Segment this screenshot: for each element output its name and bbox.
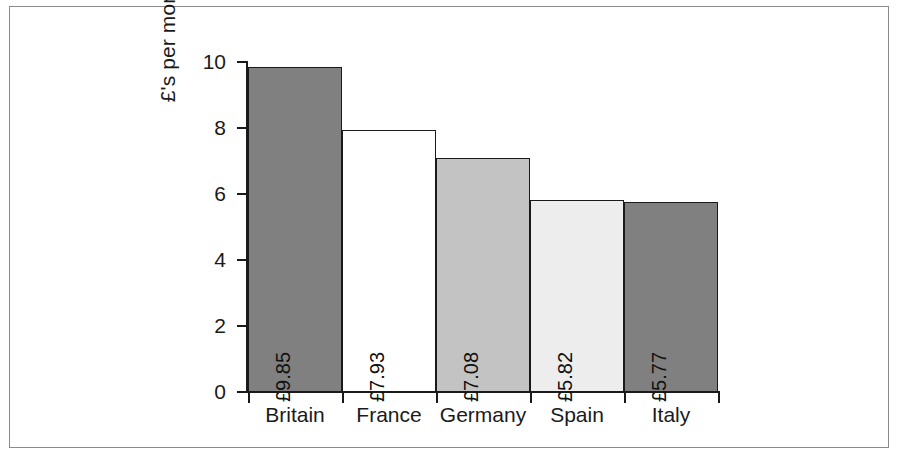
x-tick-label-france: France <box>356 403 421 427</box>
x-tick-mark <box>436 392 438 403</box>
x-tick-mark <box>248 392 250 403</box>
y-tick-label: 8 <box>182 116 226 140</box>
bar-value-label: £7.93 <box>366 352 389 402</box>
bar-value-label: £9.85 <box>272 352 295 402</box>
y-tick-label: 2 <box>182 314 226 338</box>
bar-italy: £5.77 <box>624 202 718 392</box>
y-tick-label: 0 <box>182 380 226 404</box>
x-tick-label-spain: Spain <box>550 403 604 427</box>
x-tick-mark <box>718 392 720 403</box>
y-tick-label: 6 <box>182 182 226 206</box>
y-tick-label: 10 <box>182 50 226 74</box>
x-tick-mark <box>530 392 532 403</box>
x-tick-mark <box>342 392 344 403</box>
y-tick-mark <box>237 325 246 327</box>
x-tick-mark <box>624 392 626 403</box>
y-tick-mark <box>237 127 246 129</box>
bar-france: £7.93 <box>342 130 436 392</box>
bar-spain: £5.82 <box>530 200 624 392</box>
bar-germany: £7.08 <box>436 158 530 392</box>
y-tick-mark <box>237 193 246 195</box>
y-tick-mark <box>237 259 246 261</box>
x-tick-label-germany: Germany <box>440 403 526 427</box>
x-tick-label-britain: Britain <box>265 403 325 427</box>
y-tick-label: 4 <box>182 248 226 272</box>
bar-value-label: £5.77 <box>648 352 671 402</box>
x-tick-label-italy: Italy <box>652 403 691 427</box>
bar-value-label: £7.08 <box>460 352 483 402</box>
bar-value-label: £5.82 <box>554 352 577 402</box>
y-tick-mark <box>237 61 246 63</box>
plot-area: £9.85£7.93£7.08£5.82£5.77 <box>248 62 718 392</box>
y-tick-mark <box>237 391 246 393</box>
figure: £'s per month spent on toiletries 108642… <box>0 0 898 456</box>
bar-britain: £9.85 <box>248 67 342 392</box>
